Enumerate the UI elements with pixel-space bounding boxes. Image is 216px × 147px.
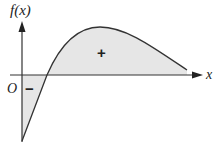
function-graph: f(x) x O + − xyxy=(0,0,216,147)
y-axis-label: f(x) xyxy=(10,2,31,19)
x-axis-label: x xyxy=(205,67,213,82)
negative-region-label: − xyxy=(25,80,34,97)
y-axis-arrow-icon xyxy=(19,21,26,32)
origin-label: O xyxy=(7,81,17,96)
positive-region-label: + xyxy=(97,44,106,61)
x-axis-arrow-icon xyxy=(192,72,203,79)
positive-region-fill xyxy=(47,27,187,75)
